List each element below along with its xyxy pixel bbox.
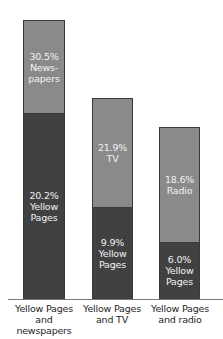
segment-tv: 21.9% TV: [92, 98, 133, 208]
x-tick-label-yellow-pages-and-radio: Yellow Pages and radio: [140, 303, 220, 325]
bar-yellow-pages-and-radio: 18.6% Radio 6.0% Yellow Pages: [159, 127, 200, 299]
segment-radio: 18.6% Radio: [159, 127, 200, 243]
segment-yellow-pages: 20.2% Yellow Pages: [23, 113, 65, 299]
segment-label-yellow-pages: 20.2% Yellow Pages: [29, 190, 58, 223]
segment-yellow-pages: 9.9% Yellow Pages: [92, 207, 133, 299]
segment-label-radio: 18.6% Radio: [165, 174, 194, 196]
segment-yellow-pages: 6.0% Yellow Pages: [159, 242, 200, 299]
segment-label-tv: 21.9% TV: [98, 142, 127, 164]
bar-yellow-pages-and-newspapers: 30.5% News- papers 20.2% Yellow Pages: [23, 20, 65, 299]
segment-label-newspapers: 30.5% News- papers: [28, 51, 59, 84]
bar-yellow-pages-and-tv: 21.9% TV 9.9% Yellow Pages: [92, 98, 133, 299]
x-axis-baseline: [8, 299, 223, 300]
segment-newspapers: 30.5% News- papers: [23, 20, 65, 114]
segment-label-yellow-pages: 6.0% Yellow Pages: [165, 254, 193, 287]
stacked-bar-chart: 30.5% News- papers 20.2% Yellow Pages 21…: [0, 0, 223, 339]
segment-label-yellow-pages: 9.9% Yellow Pages: [98, 237, 126, 270]
